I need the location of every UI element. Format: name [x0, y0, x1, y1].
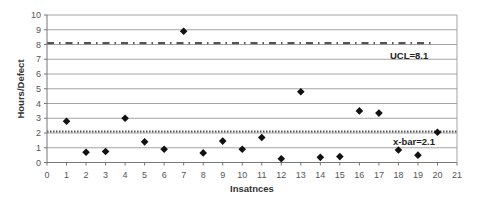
- data-point-diamond: [121, 114, 129, 122]
- data-point-diamond: [414, 151, 422, 159]
- x-tick-label: 9: [220, 170, 225, 180]
- data-point-diamond: [102, 148, 110, 156]
- x-tick-label: 14: [315, 170, 325, 180]
- data-point-diamond: [434, 128, 442, 136]
- data-point-diamond: [258, 134, 266, 142]
- data-point-diamond: [141, 138, 149, 146]
- y-axis-title: Hours/Defect: [15, 59, 26, 119]
- x-tick-label: 17: [374, 170, 384, 180]
- y-tick-label: 2: [36, 128, 41, 138]
- x-tick-label: 16: [354, 170, 364, 180]
- y-tick-label: 4: [36, 99, 41, 109]
- data-point-diamond: [199, 149, 207, 157]
- y-tick-label: 5: [36, 84, 41, 94]
- gridlines: [47, 15, 457, 148]
- x-tick-label: 2: [84, 170, 89, 180]
- ucl-label: UCL=8.1: [390, 50, 429, 61]
- x-tick-label: 10: [237, 170, 247, 180]
- x-tick-label: 6: [162, 170, 167, 180]
- y-tick-label: 6: [36, 69, 41, 79]
- data-point-diamond: [82, 148, 90, 156]
- y-tick-label: 3: [36, 113, 41, 123]
- data-point-diamond: [219, 137, 227, 145]
- y-axis-ticks: 012345678910: [31, 10, 47, 168]
- x-tick-label: 4: [123, 170, 128, 180]
- data-point-diamond: [356, 107, 364, 115]
- x-axis-title: Insatnces: [230, 183, 274, 194]
- data-point-diamond: [180, 27, 188, 35]
- x-axis-ticks: 0123456789101112131415161718192021: [44, 163, 462, 180]
- x-tick-label: 3: [103, 170, 108, 180]
- x-tick-label: 15: [335, 170, 345, 180]
- x-tick-label: 21: [452, 170, 462, 180]
- x-tick-label: 7: [181, 170, 186, 180]
- x-tick-label: 8: [201, 170, 206, 180]
- y-tick-label: 0: [36, 158, 41, 168]
- x-tick-label: 18: [393, 170, 403, 180]
- y-tick-label: 7: [36, 54, 41, 64]
- x-tick-label: 5: [142, 170, 147, 180]
- data-point-diamond: [336, 153, 344, 161]
- x-tick-label: 11: [257, 170, 266, 180]
- x-tick-label: 20: [432, 170, 442, 180]
- y-tick-label: 9: [36, 25, 41, 35]
- data-point-diamond: [160, 145, 168, 153]
- x-tick-label: 13: [296, 170, 306, 180]
- x-tick-label: 19: [413, 170, 423, 180]
- data-point-diamond: [375, 109, 383, 117]
- control-chart: 012345678910 012345678910111213141516171…: [0, 0, 481, 205]
- x-tick-label: 1: [64, 170, 69, 180]
- data-point-diamond: [317, 154, 325, 162]
- data-points: [63, 27, 442, 162]
- data-point-diamond: [277, 155, 285, 163]
- xbar-label: x-bar=2.1: [393, 136, 436, 147]
- y-tick-label: 1: [36, 143, 41, 153]
- y-tick-label: 8: [36, 40, 41, 50]
- x-tick-label: 0: [44, 170, 49, 180]
- x-tick-label: 12: [276, 170, 286, 180]
- data-point-diamond: [238, 145, 246, 153]
- y-tick-label: 10: [31, 10, 41, 20]
